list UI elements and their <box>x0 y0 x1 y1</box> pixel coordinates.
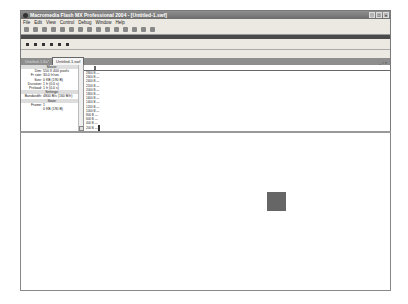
profiler-stats: Movie: Dim:550 X 400 pixels Fr rate:30.0… <box>21 65 84 131</box>
straighten-icon[interactable] <box>123 27 128 32</box>
stat-label: Preload: <box>21 86 43 90</box>
undo-icon[interactable] <box>87 27 92 32</box>
bandwidth-profiler: Movie: Dim:550 X 400 pixels Fr rate:30.0… <box>21 65 390 133</box>
gray-square-shape <box>267 192 286 211</box>
controller-toolbar <box>21 39 390 50</box>
copy-icon[interactable] <box>69 27 74 32</box>
scale-icon[interactable] <box>141 27 146 32</box>
align-icon[interactable] <box>150 27 155 32</box>
play-icon[interactable] <box>50 43 53 46</box>
menu-control[interactable]: Control <box>60 20 75 25</box>
menu-view[interactable]: View <box>46 20 56 25</box>
flash-app-icon <box>23 13 28 18</box>
menu-edit[interactable]: Edit <box>34 20 42 25</box>
menu-window[interactable]: Window <box>96 20 112 25</box>
minimize-button[interactable]: _ <box>369 12 375 18</box>
rotate-icon[interactable] <box>132 27 137 32</box>
title-bar[interactable]: Macromedia Flash MX Professional 2004 - … <box>21 11 390 19</box>
bandwidth-graph: 2800 B —2600 B —2400 B —2200 B —2000 B —… <box>84 65 390 131</box>
paste-icon[interactable] <box>78 27 83 32</box>
playhead[interactable] <box>94 66 96 70</box>
smooth-icon[interactable] <box>114 27 119 32</box>
close-button[interactable]: × <box>383 12 389 18</box>
cut-icon[interactable] <box>60 27 65 32</box>
menu-help[interactable]: Help <box>116 20 125 25</box>
open-icon[interactable] <box>33 27 38 32</box>
graph-y-labels: 2800 B —2600 B —2400 B —2200 B —2000 B —… <box>84 71 390 130</box>
print-icon[interactable] <box>51 27 56 32</box>
tab-swf[interactable]: Untitled-1.swf <box>52 57 84 65</box>
menu-file[interactable]: File <box>23 20 30 25</box>
step-forward-icon[interactable] <box>58 43 61 46</box>
stat-label <box>21 107 43 111</box>
main-toolbar <box>21 25 390 35</box>
y-axis-label: 200 B — <box>84 126 390 130</box>
stat-value: 0 KB (190 B) <box>43 107 83 111</box>
window-title: Macromedia Flash MX Professional 2004 - … <box>30 12 369 18</box>
frame-ruler[interactable] <box>84 65 390 71</box>
tab-fla[interactable]: Untitled-1.fla* <box>22 58 52 65</box>
stats-scrollbar[interactable] <box>78 65 83 131</box>
stop-icon[interactable] <box>26 43 29 46</box>
stat-label: Bandwidth: <box>21 94 43 98</box>
redo-icon[interactable] <box>96 27 101 32</box>
stage[interactable] <box>20 131 391 291</box>
snap-icon[interactable] <box>105 27 110 32</box>
step-back-icon[interactable] <box>42 43 45 46</box>
menu-debug[interactable]: Debug <box>78 20 91 25</box>
new-icon[interactable] <box>24 27 29 32</box>
go-to-end-icon[interactable] <box>66 43 69 46</box>
document-tabs: Untitled-1.fla* Untitled-1.swf _ ▫ × <box>21 58 390 65</box>
maximize-button[interactable]: □ <box>376 12 382 18</box>
rewind-icon[interactable] <box>34 43 37 46</box>
save-icon[interactable] <box>42 27 47 32</box>
